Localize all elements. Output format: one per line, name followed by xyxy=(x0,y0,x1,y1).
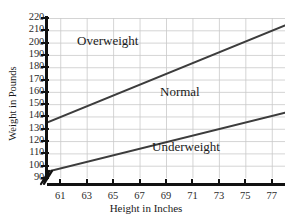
y-tick-mark xyxy=(41,152,49,154)
y-tick-label: 130 xyxy=(0,123,44,133)
y-tick-label: 210 xyxy=(0,24,44,34)
region-label-underweight: Underweight xyxy=(152,139,220,155)
x-tick-label: 61 xyxy=(47,190,73,201)
x-tick-label: 63 xyxy=(74,190,100,201)
x-tick-mark xyxy=(191,179,193,184)
region-label-overweight: Overweight xyxy=(77,33,138,49)
x-tick-mark xyxy=(165,179,167,184)
x-tick-label: 67 xyxy=(127,190,153,201)
x-tick-mark xyxy=(218,179,220,184)
y-tick-mark xyxy=(41,66,49,68)
y-axis-line xyxy=(45,16,48,180)
region-label-normal: Normal xyxy=(160,84,200,100)
y-tick-mark xyxy=(41,42,49,44)
y-tick-mark xyxy=(41,165,49,167)
y-tick-mark xyxy=(41,140,49,142)
y-tick-label: 140 xyxy=(0,110,44,120)
x-tick-mark xyxy=(112,179,114,184)
y-tick-label: 200 xyxy=(0,37,44,47)
x-tick-label: 73 xyxy=(206,190,232,201)
y-tick-label: 120 xyxy=(0,135,44,145)
x-tick-label: 65 xyxy=(100,190,126,201)
x-tick-label: 71 xyxy=(179,190,205,201)
y-tick-mark xyxy=(41,17,49,19)
x-tick-mark xyxy=(139,179,141,184)
y-tick-label: 190 xyxy=(0,49,44,59)
y-tick-mark xyxy=(41,29,49,31)
y-tick-label: 170 xyxy=(0,74,44,84)
y-tick-mark xyxy=(41,79,49,81)
y-tick-label: 160 xyxy=(0,86,44,96)
x-axis-title: Height in Inches xyxy=(0,202,292,214)
y-tick-mark xyxy=(41,103,49,105)
y-tick-label: 180 xyxy=(0,61,44,71)
y-tick-mark xyxy=(41,54,49,56)
chart-figure: Weight in Pounds 22021020019018017016015… xyxy=(0,0,292,220)
y-tick-mark xyxy=(41,115,49,117)
axis-break-icon xyxy=(38,168,62,188)
x-tick-label: 75 xyxy=(232,190,258,201)
x-tick-label: 77 xyxy=(259,190,285,201)
y-tick-mark xyxy=(41,128,49,130)
y-tick-mark xyxy=(41,91,49,93)
x-tick-mark xyxy=(86,179,88,184)
y-tick-label: 220 xyxy=(0,12,44,22)
x-tick-mark xyxy=(244,179,246,184)
x-tick-mark xyxy=(271,179,273,184)
y-tick-label: 110 xyxy=(0,147,44,157)
y-tick-label: 150 xyxy=(0,98,44,108)
x-tick-label: 69 xyxy=(153,190,179,201)
